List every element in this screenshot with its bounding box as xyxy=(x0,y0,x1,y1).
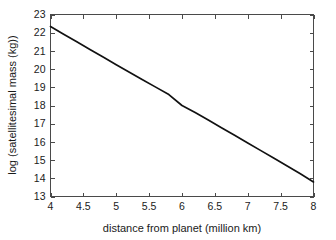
y-tick-label: 20 xyxy=(34,63,46,75)
x-tick-label: 5.5 xyxy=(142,200,157,212)
y-tick-label: 19 xyxy=(34,81,46,93)
x-tick-label: 7 xyxy=(245,200,251,212)
x-tick-label: 7.5 xyxy=(273,200,288,212)
y-tick-label: 23 xyxy=(34,8,46,20)
y-tick-labels-group: 1314151617181920212223 xyxy=(34,8,46,202)
x-tick-label: 5 xyxy=(113,200,119,212)
x-tick-label: 6 xyxy=(179,200,185,212)
y-tick-label: 14 xyxy=(34,172,46,184)
x-tick-label: 4 xyxy=(48,200,54,212)
y-tick-label: 22 xyxy=(34,26,46,38)
y-tick-label: 15 xyxy=(34,154,46,166)
y-tick-label: 18 xyxy=(34,99,46,111)
x-axis-title: distance from planet (million km) xyxy=(103,222,261,234)
x-tick-label: 6.5 xyxy=(208,200,223,212)
y-tick-label: 17 xyxy=(34,117,46,129)
y-tick-label: 21 xyxy=(34,45,46,57)
y-tick-label: 16 xyxy=(34,136,46,148)
x-tick-labels-group: 44.555.566.577.58 xyxy=(48,200,317,212)
line-chart: 44.555.566.577.58 1314151617181920212223… xyxy=(0,0,336,240)
x-tick-label: 8 xyxy=(311,200,317,212)
x-tick-label: 4.5 xyxy=(76,200,91,212)
y-axis-title: log (satellitesimal mass (kg)) xyxy=(6,35,18,174)
chart-figure: 44.555.566.577.58 1314151617181920212223… xyxy=(0,0,336,240)
y-tick-label: 13 xyxy=(34,190,46,202)
